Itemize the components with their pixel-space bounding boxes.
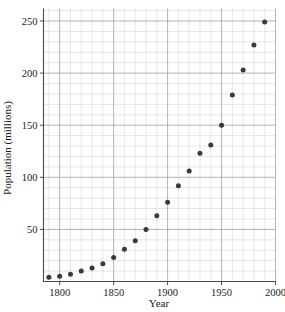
y-tick-label: 150	[22, 120, 38, 131]
data-point	[111, 255, 116, 260]
x-tick-label: 1950	[211, 287, 232, 298]
data-point	[90, 265, 95, 270]
data-point	[262, 20, 267, 25]
data-point	[187, 169, 192, 174]
x-tick-label: 1850	[103, 287, 124, 298]
population-scatter-figure: 18001850190019502000 50100150200250 Year…	[0, 0, 285, 312]
data-point	[230, 92, 235, 97]
y-tick-label: 50	[27, 224, 38, 235]
data-point	[46, 275, 51, 280]
data-point	[57, 274, 62, 279]
tick-marks	[40, 21, 276, 285]
y-axis-title: Population (millions)	[1, 101, 14, 195]
data-point	[79, 269, 84, 274]
x-tick-labels: 18001850190019502000	[49, 287, 285, 298]
y-tick-label: 200	[22, 68, 38, 79]
data-point	[176, 183, 181, 188]
data-point	[133, 238, 138, 243]
y-tick-label: 250	[22, 16, 38, 27]
x-tick-label: 1800	[49, 287, 70, 298]
data-point	[197, 151, 202, 156]
chart-canvas: 18001850190019502000 50100150200250 Year…	[0, 0, 285, 312]
data-point	[68, 272, 73, 277]
data-point	[208, 143, 213, 148]
y-tick-label: 100	[22, 172, 38, 183]
x-tick-label: 2000	[265, 287, 285, 298]
minor-gridlines	[44, 9, 276, 282]
x-axis-title: Year	[149, 297, 170, 309]
data-point	[144, 227, 149, 232]
y-tick-labels: 50100150200250	[22, 16, 38, 235]
data-point	[100, 261, 105, 266]
axis-lines	[44, 9, 276, 282]
data-point	[165, 200, 170, 205]
data-point	[219, 123, 224, 128]
data-point	[251, 42, 256, 47]
data-point	[154, 213, 159, 218]
major-gridlines	[44, 9, 276, 282]
data-point	[241, 67, 246, 72]
x-tick-label: 1900	[157, 287, 178, 298]
data-point	[122, 247, 127, 252]
